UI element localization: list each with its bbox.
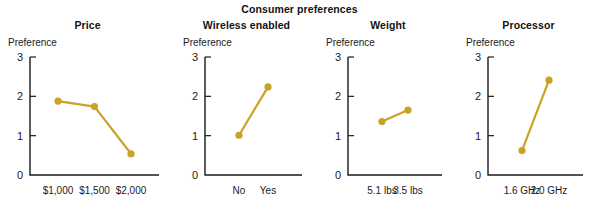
y-tick-label: 2 (335, 90, 341, 102)
y-tick-label: 3 (475, 51, 481, 63)
data-point-marker (545, 77, 552, 84)
y-tick-label: 1 (475, 130, 481, 142)
x-tick-label: $1,500 (79, 185, 110, 196)
y-tick-label: 3 (335, 51, 341, 63)
y-tick-label: 2 (192, 90, 198, 102)
data-point-marker (235, 132, 242, 139)
y-tick-label: 3 (17, 51, 23, 63)
data-point-marker (91, 103, 98, 110)
data-point-marker (54, 97, 61, 104)
panel-row: PricePreference0123$1,000$1,500$2,000Wir… (0, 19, 599, 210)
plot-area: 01231.6 GHz2.0 GHz (458, 19, 599, 210)
x-tick-label: Yes (260, 185, 276, 196)
consumer-preferences-figure: Consumer preferences PricePreference0123… (0, 0, 599, 210)
data-point-marker (127, 150, 134, 157)
x-tick-label: 2.0 GHz (531, 185, 568, 196)
y-tick-label: 1 (192, 130, 198, 142)
y-tick-label: 1 (335, 130, 341, 142)
y-tick-label: 1 (17, 130, 23, 142)
series-line (382, 110, 408, 121)
y-tick-label: 2 (475, 90, 481, 102)
series-line (522, 80, 549, 150)
plot-area: 01235.1 lbs3.5 lbs (318, 19, 458, 210)
data-point-marker (264, 83, 271, 90)
x-tick-label: 3.5 lbs (393, 185, 422, 196)
chart-panel-wireless-enabled: Wireless enabledPreference0123NoYes (175, 19, 318, 210)
y-tick-label: 2 (17, 90, 23, 102)
figure-title: Consumer preferences (0, 3, 599, 15)
plot-area: 0123$1,000$1,500$2,000 (0, 19, 175, 210)
series-line (239, 87, 268, 135)
data-point-marker (518, 147, 525, 154)
x-tick-label: $2,000 (116, 185, 147, 196)
data-point-marker (378, 118, 385, 125)
data-point-marker (404, 107, 411, 114)
axis-spine (205, 57, 302, 175)
y-tick-label: 0 (335, 169, 341, 181)
y-tick-label: 0 (17, 169, 23, 181)
plot-area: 0123NoYes (175, 19, 318, 210)
y-tick-label: 0 (192, 169, 198, 181)
x-tick-label: No (233, 185, 246, 196)
x-tick-label: $1,000 (43, 185, 74, 196)
axis-spine (30, 57, 159, 175)
chart-panel-weight: WeightPreference01235.1 lbs3.5 lbs (318, 19, 458, 210)
y-tick-label: 0 (475, 169, 481, 181)
chart-panel-price: PricePreference0123$1,000$1,500$2,000 (0, 19, 175, 210)
chart-panel-processor: ProcessorPreference01231.6 GHz2.0 GHz (458, 19, 599, 210)
y-tick-label: 3 (192, 51, 198, 63)
